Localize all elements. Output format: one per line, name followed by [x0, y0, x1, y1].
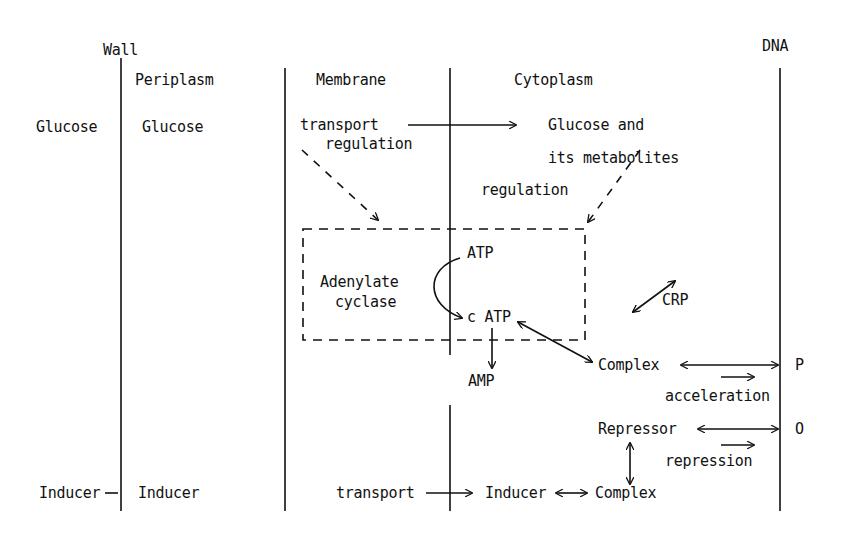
- periplasm-label: Periplasm: [135, 71, 214, 89]
- regulation-label: regulation: [325, 135, 412, 153]
- repressor-label: Repressor: [598, 420, 677, 438]
- atp-to-camp-arrow: [434, 258, 462, 318]
- cytoplasm-regulation-label: regulation: [481, 181, 568, 199]
- glucose-periplasm: Glucose: [142, 118, 203, 136]
- inducer-cytoplasm: Inducer: [485, 484, 546, 502]
- camp-label: c ATP: [467, 308, 511, 326]
- inducer-periplasm: Inducer: [138, 484, 199, 502]
- diagram-canvas: Wall Periplasm Membrane Cytoplasm DNA Gl…: [0, 0, 844, 541]
- inducer-complex-label: Complex: [595, 484, 656, 502]
- wall-label: Wall: [103, 41, 138, 59]
- transport-regulation-arrow: [302, 150, 378, 220]
- operator-label: O: [795, 420, 804, 438]
- camp-complex-arrow: [518, 322, 592, 362]
- acceleration-label: acceleration: [665, 387, 770, 405]
- repression-label: repression: [665, 452, 752, 470]
- glucose-outside: Glucose: [36, 118, 97, 136]
- transport-label: transport: [300, 116, 379, 134]
- membrane-label: Membrane: [316, 71, 386, 89]
- dna-label: DNA: [762, 37, 788, 55]
- adenylate-label: Adenylate: [320, 273, 399, 291]
- glucose-metabolites-line1: Glucose and: [548, 116, 644, 134]
- crp-complex-label: Complex: [598, 356, 659, 374]
- cytoplasm-label: Cytoplasm: [514, 71, 593, 89]
- promoter-label: P: [795, 356, 804, 374]
- amp-label: AMP: [468, 372, 494, 390]
- inducer-outside: Inducer: [39, 484, 100, 502]
- crp-label: CRP: [662, 291, 688, 309]
- cyclase-label: cyclase: [335, 293, 396, 311]
- inducer-transport-label: transport: [336, 484, 415, 502]
- atp-label: ATP: [467, 244, 493, 262]
- glucose-metabolites-line2: its metabolites: [548, 149, 679, 167]
